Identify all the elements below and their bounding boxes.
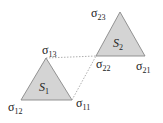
label-sigma-13: σ13 xyxy=(42,43,56,59)
label-sigma-23: σ23 xyxy=(91,6,105,22)
diagram-canvas: S1 S2 σ13 σ12 σ11 σ23 σ22 σ21 xyxy=(0,0,163,123)
label-sigma-22: σ22 xyxy=(96,57,110,73)
label-sigma-12: σ12 xyxy=(8,100,22,116)
dotted-link-diagonal xyxy=(72,56,96,100)
label-sigma-11: σ11 xyxy=(76,96,90,112)
label-sigma-21: σ21 xyxy=(136,59,150,75)
